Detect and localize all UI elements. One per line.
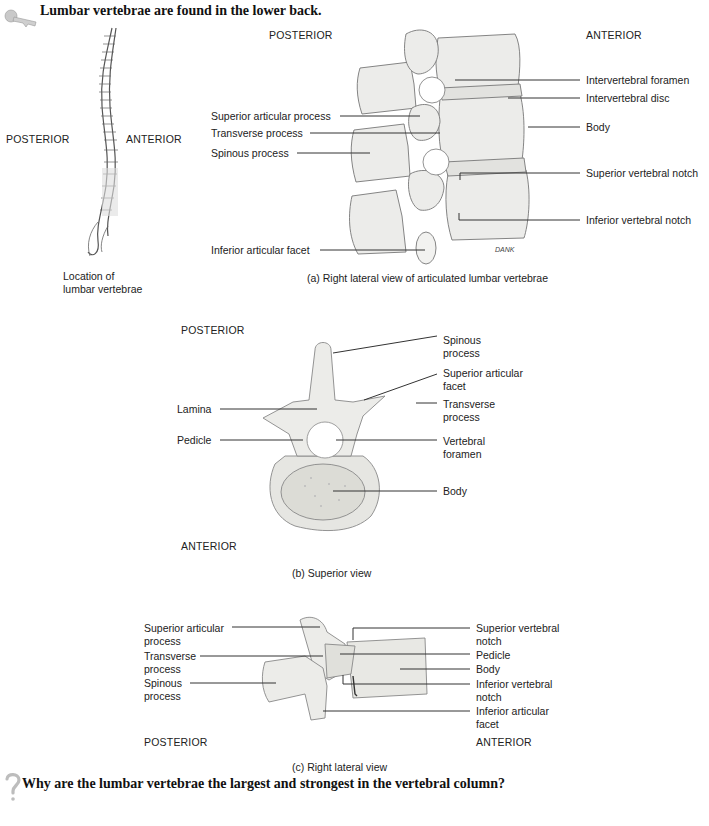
spine-caption-line2: lumbar vertebrae: [63, 283, 142, 295]
label-inferior-vertebral-notch: Inferior vertebral notch: [586, 214, 691, 226]
panel-c-posterior-label: POSTERIOR: [144, 736, 208, 748]
label-superior-vertebral-notch: Superior vertebral notch: [476, 622, 559, 647]
panel-c-caption: (c) Right lateral view: [292, 761, 387, 773]
label-body: Body: [443, 485, 467, 497]
articulated-vertebrae-illustration: DANK: [340, 26, 570, 266]
label-inferior-vertebral-notch: Inferior vertebral notch: [476, 678, 552, 703]
label-pedicle: Pedicle: [177, 434, 211, 446]
spine-caption-line1: Location of: [63, 270, 114, 282]
panel-a-caption: (a) Right lateral view of articulated lu…: [307, 272, 548, 284]
spine-posterior-label: POSTERIOR: [6, 133, 70, 145]
right-lateral-view-illustration: [255, 614, 440, 724]
label-spinous-process: Spinous process: [211, 147, 289, 159]
panel-b-anterior-label: ANTERIOR: [181, 540, 237, 552]
spine-anterior-label: ANTERIOR: [126, 133, 182, 145]
label-inferior-articular-facet: Inferior articular facet: [476, 705, 549, 730]
spine-illustration: [82, 26, 122, 262]
page-title: Lumbar vertebrae are found in the lower …: [40, 3, 322, 19]
label-superior-vertebral-notch: Superior vertebral notch: [586, 167, 698, 179]
panel-a-anterior-label: ANTERIOR: [586, 29, 642, 41]
label-transverse-process: Transverse process: [443, 398, 495, 423]
label-body: Body: [476, 663, 500, 675]
panel-a-posterior-label: POSTERIOR: [269, 29, 333, 41]
artist-signature: DANK: [495, 246, 515, 253]
label-vertebral-foramen: Vertebral foramen: [443, 435, 485, 460]
label-superior-articular-process: Superior articular process: [144, 622, 224, 647]
panel-b-posterior-label: POSTERIOR: [181, 324, 245, 336]
label-lamina: Lamina: [177, 403, 211, 415]
label-transverse-process: Transverse process: [211, 127, 303, 139]
label-pedicle: Pedicle: [476, 649, 510, 661]
label-intervertebral-foramen: Intervertebral foramen: [586, 74, 689, 86]
question-mark-icon: [4, 772, 22, 802]
review-question: Why are the lumbar vertebrae the largest…: [22, 776, 505, 792]
superior-view-illustration: [245, 336, 405, 536]
label-intervertebral-disc: Intervertebral disc: [586, 92, 669, 104]
label-spinous-process: Spinous process: [144, 677, 182, 702]
label-superior-articular-facet: Superior articular facet: [443, 367, 523, 392]
label-superior-articular-process: Superior articular process: [211, 110, 331, 122]
panel-b-caption: (b) Superior view: [292, 567, 371, 579]
label-inferior-articular-facet: Inferior articular facet: [211, 244, 310, 256]
label-spinous-process: Spinous process: [443, 334, 481, 359]
key-icon: [4, 8, 38, 30]
label-transverse-process: Transverse process: [144, 650, 196, 675]
label-body: Body: [586, 121, 610, 133]
panel-c-anterior-label: ANTERIOR: [476, 736, 532, 748]
